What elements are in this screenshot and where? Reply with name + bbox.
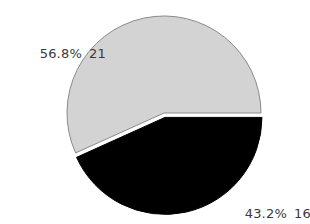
slice-percent: 43.2% xyxy=(245,206,287,221)
slice-label-56-8: 56.8%21 xyxy=(31,31,106,61)
slice-label-43-2: 43.2%16 xyxy=(236,191,310,221)
slice-count: 21 xyxy=(89,46,106,61)
slice-count: 16 xyxy=(294,206,310,221)
slice-percent: 56.8% xyxy=(40,46,82,61)
